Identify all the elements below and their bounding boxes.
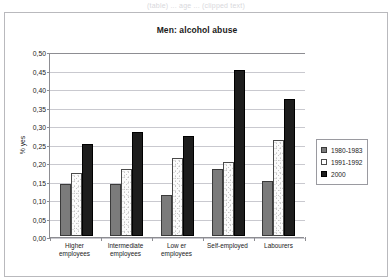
bar[interactable] xyxy=(262,181,273,237)
y-tick-mark xyxy=(47,146,50,147)
x-tick-mark xyxy=(305,237,306,241)
bar[interactable] xyxy=(71,173,82,236)
bar-groups xyxy=(51,53,304,236)
y-tick-mark xyxy=(47,53,50,54)
chart-title: Men: alcohol abuse xyxy=(5,25,389,35)
bar-group xyxy=(51,53,102,236)
y-tick-label: 0,40 xyxy=(12,87,46,94)
y-tick-label: 0,45 xyxy=(12,68,46,75)
clipped-top-caption: (table) ... age ... (clipped text) xyxy=(0,0,392,11)
legend-swatch-icon xyxy=(321,147,327,153)
legend-label: 1991-1992 xyxy=(331,159,363,166)
bar[interactable] xyxy=(284,99,295,236)
grid-line xyxy=(50,238,305,239)
chart-legend: 1980-1983 1991-1992 2000 xyxy=(316,139,368,185)
bar[interactable] xyxy=(110,184,121,236)
y-tick-mark xyxy=(47,72,50,73)
bar-group xyxy=(102,53,153,236)
chart-figure: Men: alcohol abuse % yes 0,500,450,400,3… xyxy=(4,12,388,277)
bar[interactable] xyxy=(234,70,245,237)
y-tick-label: 0,50 xyxy=(12,50,46,57)
x-tick-mark xyxy=(152,237,153,241)
bar-group xyxy=(203,53,254,236)
x-axis-labels: Higher employeesIntermediate employeesLo… xyxy=(49,242,304,258)
legend-item[interactable]: 1980-1983 xyxy=(321,144,363,156)
x-axis-label: Higher employees xyxy=(49,242,100,258)
bar-group xyxy=(152,53,203,236)
bar[interactable] xyxy=(183,136,194,236)
x-tick-mark xyxy=(50,237,51,241)
bar[interactable] xyxy=(132,132,143,236)
x-axis-label: Intermediate employees xyxy=(100,242,151,258)
bar[interactable] xyxy=(60,184,71,236)
y-tick-mark xyxy=(47,109,50,110)
bar-group xyxy=(253,53,304,236)
bar[interactable] xyxy=(223,162,234,236)
y-tick-label: 0,30 xyxy=(12,124,46,131)
x-axis-label: Self-employed xyxy=(202,242,253,258)
bar[interactable] xyxy=(121,169,132,236)
y-tick-label: 0,35 xyxy=(12,105,46,112)
x-tick-mark xyxy=(101,237,102,241)
bar[interactable] xyxy=(172,158,183,236)
plot-area: 0,500,450,400,350,300,250,200,150,100,05… xyxy=(49,53,304,238)
legend-swatch-icon xyxy=(321,171,327,177)
y-tick-mark xyxy=(47,201,50,202)
y-tick-label: 0,20 xyxy=(12,161,46,168)
y-tick-label: 0,00 xyxy=(12,235,46,242)
bar[interactable] xyxy=(273,140,284,236)
legend-item[interactable]: 1991-1992 xyxy=(321,156,363,168)
y-tick-mark xyxy=(47,90,50,91)
legend-label: 1980-1983 xyxy=(331,147,363,154)
bar[interactable] xyxy=(212,169,223,236)
y-tick-mark xyxy=(47,220,50,221)
x-axis-label: Labourers xyxy=(253,242,304,258)
y-tick-label: 0,10 xyxy=(12,198,46,205)
legend-swatch-icon xyxy=(321,159,327,165)
y-tick-label: 0,05 xyxy=(12,216,46,223)
bar[interactable] xyxy=(82,144,93,237)
x-tick-mark xyxy=(203,237,204,241)
y-tick-mark xyxy=(47,127,50,128)
x-tick-mark xyxy=(254,237,255,241)
x-axis-label: Low er employees xyxy=(151,242,202,258)
y-tick-label: 0,25 xyxy=(12,142,46,149)
y-tick-mark xyxy=(47,183,50,184)
legend-label: 2000 xyxy=(331,171,346,178)
bar[interactable] xyxy=(161,195,172,236)
y-tick-mark xyxy=(47,164,50,165)
legend-item[interactable]: 2000 xyxy=(321,168,363,180)
y-tick-label: 0,15 xyxy=(12,179,46,186)
